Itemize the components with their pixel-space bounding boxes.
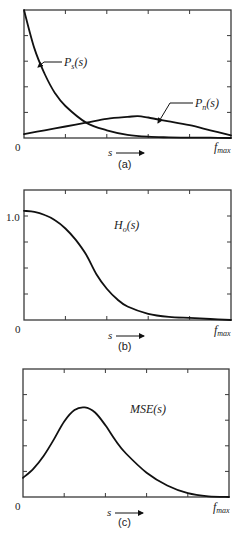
fmax-label: fmax: [214, 323, 231, 338]
y-tick-label-1: 1.0: [6, 211, 20, 223]
mse-label: MSE(s): [129, 402, 166, 416]
x-origin-label: 0: [15, 323, 21, 335]
curve-ps: [24, 10, 231, 138]
ticks-b: [24, 190, 231, 320]
s-axis-label: s: [107, 506, 111, 518]
x-origin-label: 0: [15, 141, 21, 153]
fmax-label: fmax: [214, 140, 231, 155]
ps-label: Ps(s): [63, 55, 87, 71]
ho-label: Ho(s): [113, 218, 139, 234]
plot-frame-a: [24, 10, 231, 138]
panel-a: Ps(s) Pn(s) 0 fmax s (a): [15, 10, 231, 170]
s-axis-label: s: [108, 329, 112, 341]
ticks-c: [23, 369, 229, 497]
panel-c: MSE(s) 0 fmax s (c): [15, 369, 230, 528]
caption-a: (a): [118, 158, 131, 170]
figure: Ps(s) Pn(s) 0 fmax s (a) Ho(s) 1.0 0 fma…: [0, 0, 248, 534]
plot-frame-c: [23, 369, 229, 497]
curve-mse: [23, 407, 229, 497]
panel-b: Ho(s) 1.0 0 fmax s (b): [6, 190, 231, 352]
curve-pn: [24, 116, 231, 135]
plot-frame-b: [24, 190, 231, 320]
caption-b: (b): [118, 340, 131, 352]
s-axis-label: s: [108, 146, 112, 158]
fmax-label: fmax: [213, 500, 230, 515]
pn-label: Pn(s): [194, 96, 219, 112]
ticks-a: [24, 10, 231, 138]
x-origin-label: 0: [15, 500, 21, 512]
caption-c: (c): [118, 516, 131, 528]
